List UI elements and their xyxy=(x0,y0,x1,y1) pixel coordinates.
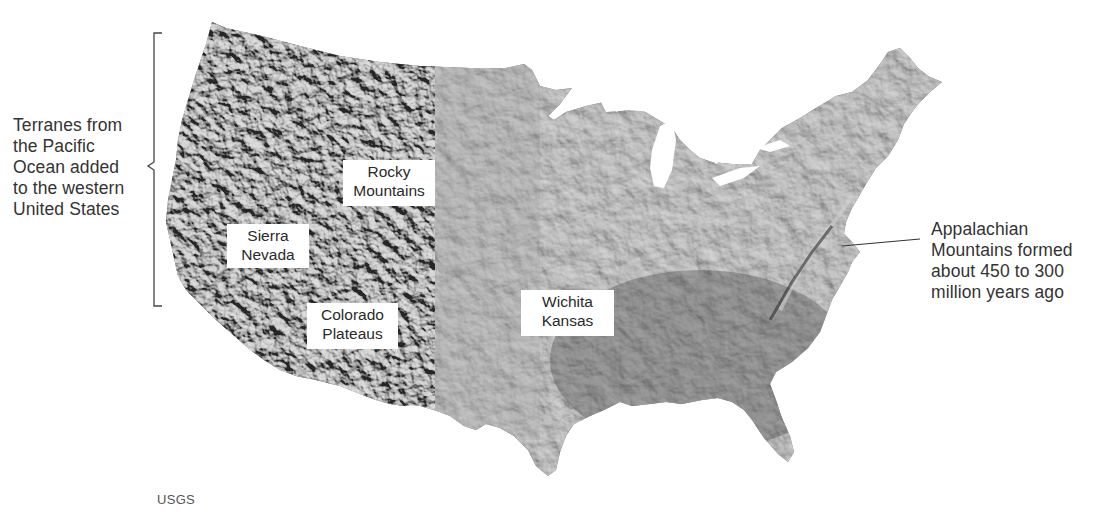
annotation-line: Mountains formed xyxy=(931,240,1073,261)
source-credit: USGS xyxy=(157,492,195,507)
terranes-annotation: Terranes from the Pacific Ocean added to… xyxy=(13,115,124,220)
annotation-line: about 450 to 300 xyxy=(931,261,1073,282)
label-line: Plateaus xyxy=(311,324,394,343)
annotation-line: Ocean added xyxy=(13,157,124,178)
label-line: Rocky xyxy=(347,162,431,181)
label-line: Colorado xyxy=(311,305,394,324)
label-line: Sierra xyxy=(231,226,305,245)
map-figure: Terranes from the Pacific Ocean added to… xyxy=(0,0,1104,530)
bracket-line xyxy=(148,33,162,306)
leader-line xyxy=(842,239,920,246)
label-sierra-nevada: Sierra Nevada xyxy=(227,224,309,268)
annotation-line: United States xyxy=(13,199,124,220)
annotation-line: the Pacific xyxy=(13,136,124,157)
appalachian-annotation: Appalachian Mountains formed about 450 t… xyxy=(931,219,1073,303)
label-line: Kansas xyxy=(525,311,610,330)
annotation-line: million years ago xyxy=(931,282,1073,303)
label-colorado-plateaus: Colorado Plateaus xyxy=(307,303,398,349)
label-wichita-kansas: Wichita Kansas xyxy=(521,290,614,336)
annotation-line: to the western xyxy=(13,178,124,199)
annotation-line: Appalachian xyxy=(931,219,1073,240)
label-line: Nevada xyxy=(231,245,305,264)
label-rocky-mountains: Rocky Mountains xyxy=(343,160,435,206)
label-line: Mountains xyxy=(347,181,431,200)
label-line: Wichita xyxy=(525,292,610,311)
annotation-line: Terranes from xyxy=(13,115,124,136)
